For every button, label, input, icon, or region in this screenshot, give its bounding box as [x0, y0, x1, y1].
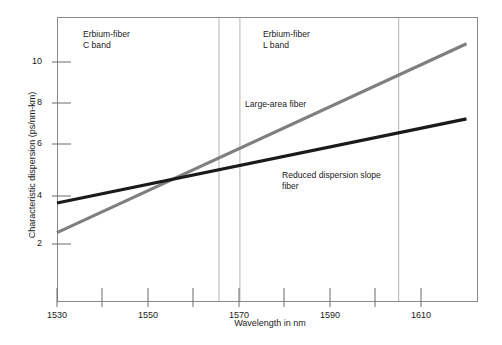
x-tick-label-1530: 1530 [37, 310, 77, 320]
annotation-erbium-l-band-line1: Erbium-fiber [263, 29, 310, 41]
dispersion-chart: 10 8 6 4 2 1530 1550 1570 1590 1610 Char… [0, 0, 502, 345]
annotation-reduced-dispersion-slope-fiber-line1: Reduced dispersion slope [282, 170, 381, 182]
y-axis-label: Characteristic dispersion (ps/nm-km) [27, 60, 37, 270]
x-tick-label-1550: 1550 [128, 310, 168, 320]
chart-canvas [0, 0, 502, 345]
x-tick-label-1610: 1610 [401, 310, 441, 320]
annotation-reduced-dispersion-slope-fiber-line2: fiber [282, 181, 299, 193]
annotation-large-area-fiber: Large-area fiber [245, 99, 306, 111]
annotation-erbium-c-band-line1: Erbium-fiber [83, 29, 130, 41]
annotation-erbium-c-band-line2: C band [83, 40, 111, 52]
annotation-erbium-l-band-line2: L band [263, 40, 289, 52]
x-axis-label: Wavelength in nm [180, 318, 360, 328]
